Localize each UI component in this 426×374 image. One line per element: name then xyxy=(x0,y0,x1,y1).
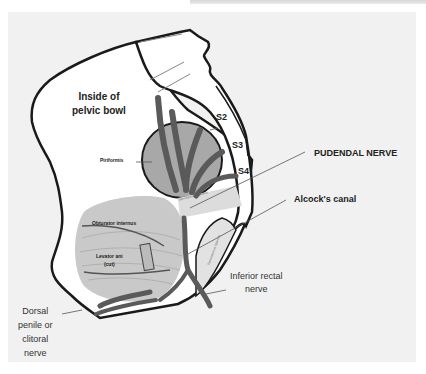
pelvis-diagram xyxy=(0,0,426,374)
label-inferior-rectal-nerve: Inferior rectal nerve xyxy=(230,270,283,296)
label-s3: S3 xyxy=(232,140,243,150)
label-obturator-internus: Obturator internus xyxy=(92,220,136,226)
label-alcocks-canal: Alcock's canal xyxy=(294,194,356,204)
label-levator-ani: Levator ani (cut) xyxy=(96,252,123,268)
label-inside-pelvic-bowl: Inside of pelvic bowl xyxy=(72,90,126,118)
label-dorsal-nerve: Dorsal penile or clitoral nerve xyxy=(18,304,53,360)
label-s4: S4 xyxy=(238,166,249,176)
label-s2: S2 xyxy=(216,112,227,122)
obturator-internus-muscle xyxy=(75,196,184,302)
label-piriformis: Piriformis xyxy=(100,157,123,163)
label-pudendal-nerve: PUDENDAL NERVE xyxy=(314,148,397,158)
